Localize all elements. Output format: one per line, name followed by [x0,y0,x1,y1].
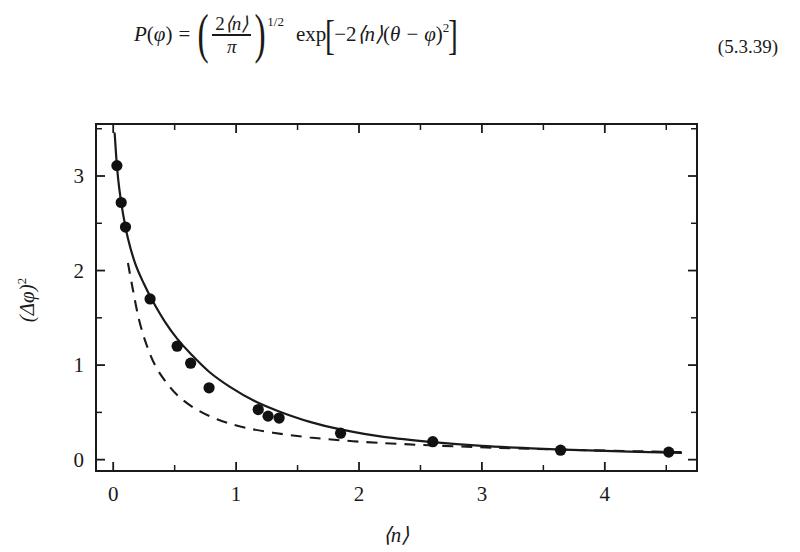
equation-number: (5.3.39) [718,36,778,58]
equation-lhs-variable: φ [154,24,166,45]
y-tick-label: 1 [74,353,85,377]
exp-arg-minus: − [406,24,418,45]
figure-plot-area: 01234 0123 ⟨n⟩ (Δφ)2 [0,104,800,552]
x-axis-tick-labels: 01234 [108,482,611,506]
equation-expression: P(φ) = ( 2⟨n⟩ π )1/2 exp [ −2⟨n⟩(θ−φ)2 ] [134,14,457,56]
scatter-plot-svg: 01234 0123 ⟨n⟩ (Δφ)2 [0,104,800,552]
data-point [144,293,155,304]
y-tick-label: 3 [74,164,85,188]
x-tick-label: 2 [354,482,365,506]
equation-equals-sign: = [178,24,190,45]
data-point [185,358,196,369]
data-point [335,428,346,439]
data-point [555,445,566,456]
exp-arg-mean-photon: ⟨n⟩ [357,24,384,45]
data-point [274,412,285,423]
y-axis-major-ticks [96,176,697,460]
fraction-numerator: 2⟨n⟩ [212,14,251,34]
left-big-bracket: [ [325,20,335,50]
x-axis-title: ⟨n⟩ [383,523,410,547]
x-axis-major-ticks [113,124,605,471]
x-tick-label: 4 [600,482,611,506]
data-point [262,411,273,422]
fraction-denominator: π [224,36,240,56]
exp-arg-phi: φ [424,24,436,45]
x-axis-minor-ticks [175,124,667,471]
left-big-paren: ( [198,15,209,54]
fraction: 2⟨n⟩ π [212,14,251,56]
y-tick-label: 2 [74,259,85,283]
y-axis-title-group: (Δφ)2 [14,278,39,322]
data-point [116,197,127,208]
data-point [253,404,264,415]
data-point [427,436,438,447]
y-axis-title: (Δφ)2 [14,278,39,322]
data-point [172,341,183,352]
data-point [203,382,214,393]
paren-exponent: 1/2 [267,15,284,28]
y-axis-minor-ticks [96,129,697,413]
equation-lhs-function: P [134,24,147,45]
right-big-bracket: ] [448,20,458,50]
y-axis-tick-labels: 0123 [74,164,85,472]
x-tick-label: 3 [477,482,488,506]
x-tick-label: 1 [231,482,242,506]
poisson-dashed-curve [128,263,688,452]
right-big-paren: ) [255,15,266,54]
data-point [111,160,122,171]
x-tick-label: 0 [108,482,119,506]
exp-arg-coefficient: −2 [334,24,356,45]
data-point [120,221,131,232]
numerator-mean-photon: ⟨n⟩ [225,13,249,34]
exp-arg-theta: θ [390,24,400,45]
data-point-group [111,160,674,458]
plot-frame [96,124,697,471]
exp-label: exp [296,24,326,45]
data-point [663,446,674,457]
equation-block: P(φ) = ( 2⟨n⟩ π )1/2 exp [ −2⟨n⟩(θ−φ)2 ]… [0,0,800,104]
y-tick-label: 0 [74,448,85,472]
theory-solid-curve [115,133,681,452]
numerator-coefficient: 2 [215,13,225,34]
